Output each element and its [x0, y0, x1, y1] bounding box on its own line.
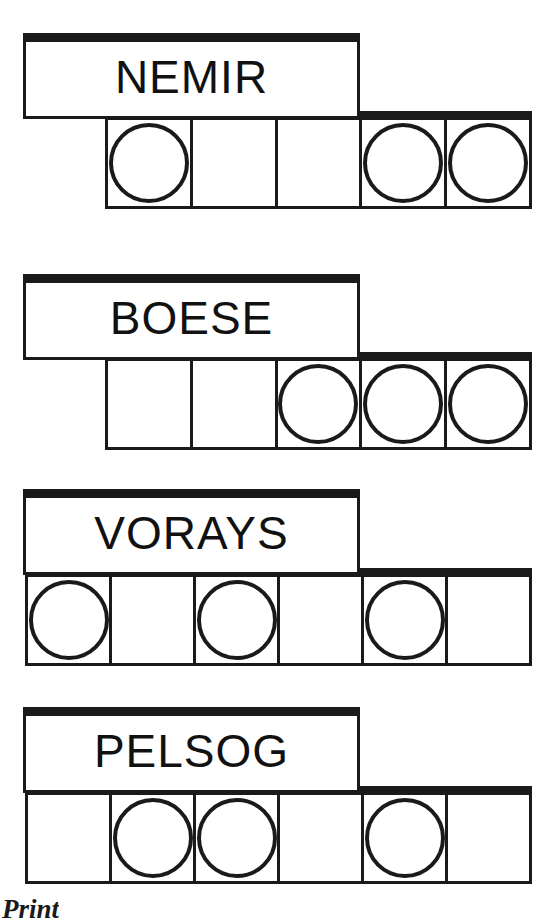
phoneme-cell[interactable] — [112, 577, 196, 663]
circle-marker-icon — [365, 580, 445, 660]
circle-marker-icon — [278, 364, 358, 444]
phoneme-cell[interactable] — [108, 361, 193, 447]
word-label: VORAYS — [23, 510, 360, 556]
word-label: BOESE — [23, 295, 360, 341]
cell-row-boese — [105, 352, 532, 450]
phoneme-cell[interactable] — [278, 361, 363, 447]
phoneme-cell[interactable] — [364, 577, 448, 663]
phoneme-cell[interactable] — [193, 120, 278, 206]
word-label: NEMIR — [23, 54, 360, 100]
phoneme-cell[interactable] — [280, 577, 364, 663]
circle-marker-icon — [365, 798, 445, 878]
circle-marker-icon — [113, 798, 193, 878]
footer-caption: Print — [2, 896, 59, 919]
phoneme-cell[interactable] — [196, 795, 280, 881]
cell-row-pelsog — [25, 786, 532, 884]
phoneme-cell[interactable] — [448, 795, 529, 881]
circle-marker-icon — [109, 123, 189, 203]
phoneme-cell[interactable] — [196, 577, 280, 663]
cell-row-nemir — [105, 111, 532, 209]
circle-marker-icon — [197, 798, 277, 878]
worksheet-canvas: NEMIRBOESEVORAYSPELSOG — [0, 0, 555, 919]
circle-marker-icon — [197, 580, 277, 660]
word-label: PELSOG — [23, 728, 360, 774]
phoneme-cell[interactable] — [28, 577, 112, 663]
circle-marker-icon — [363, 364, 443, 444]
phoneme-cell[interactable] — [280, 795, 364, 881]
phoneme-cell[interactable] — [108, 120, 193, 206]
cell-row-vorays — [25, 568, 532, 666]
circle-marker-icon — [363, 123, 443, 203]
phoneme-cell[interactable] — [364, 795, 448, 881]
phoneme-cell[interactable] — [362, 120, 447, 206]
phoneme-cell[interactable] — [112, 795, 196, 881]
phoneme-cell[interactable] — [447, 120, 529, 206]
circle-marker-icon — [448, 364, 528, 444]
phoneme-cell[interactable] — [28, 795, 112, 881]
circle-marker-icon — [29, 580, 109, 660]
phoneme-cell[interactable] — [447, 361, 529, 447]
phoneme-cell[interactable] — [448, 577, 529, 663]
phoneme-cell[interactable] — [193, 361, 278, 447]
circle-marker-icon — [448, 123, 528, 203]
phoneme-cell[interactable] — [278, 120, 363, 206]
phoneme-cell[interactable] — [362, 361, 447, 447]
